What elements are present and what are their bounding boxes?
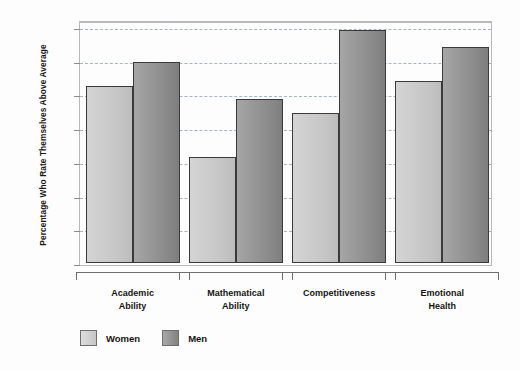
- bar-men-0: [133, 62, 180, 263]
- gridline: [80, 29, 491, 30]
- category-bracket: [282, 272, 396, 280]
- bar-men-2: [339, 30, 386, 263]
- y-tick-mark: [74, 231, 80, 232]
- legend-item-women: Women: [80, 330, 140, 346]
- bar-women-1: [189, 157, 236, 263]
- bar-men-3: [442, 47, 489, 263]
- y-axis-title: Percentage Who Rate Themselves Above Ave…: [38, 20, 48, 270]
- legend-swatch-women: [80, 330, 97, 346]
- y-tick-mark: [74, 198, 80, 199]
- legend-label: Men: [188, 333, 207, 344]
- legend-swatch-men: [162, 330, 179, 346]
- legend-item-men: Men: [162, 330, 207, 346]
- bar-women-3: [395, 81, 442, 263]
- y-tick-mark: [74, 130, 80, 131]
- category-bracket: [76, 272, 190, 280]
- y-tick-mark: [74, 96, 80, 97]
- bar-women-0: [86, 86, 133, 263]
- category-bracket: [179, 272, 293, 280]
- category-label-line: Ability: [167, 300, 305, 313]
- bar-women-2: [292, 113, 339, 263]
- category-label-line: Emotional: [373, 287, 511, 300]
- category-bracket: [385, 272, 499, 280]
- y-tick-mark: [74, 265, 80, 266]
- bar-chart-figure: Percentage Who Rate Themselves Above Ave…: [0, 0, 520, 371]
- y-tick-mark: [74, 63, 80, 64]
- category-label: EmotionalHealth: [373, 287, 511, 313]
- bar-men-1: [236, 99, 283, 263]
- legend-label: Women: [106, 333, 140, 344]
- y-tick-mark: [74, 164, 80, 165]
- category-label-line: Health: [373, 300, 511, 313]
- chart-legend: WomenMen: [80, 330, 207, 346]
- y-tick-mark: [74, 29, 80, 30]
